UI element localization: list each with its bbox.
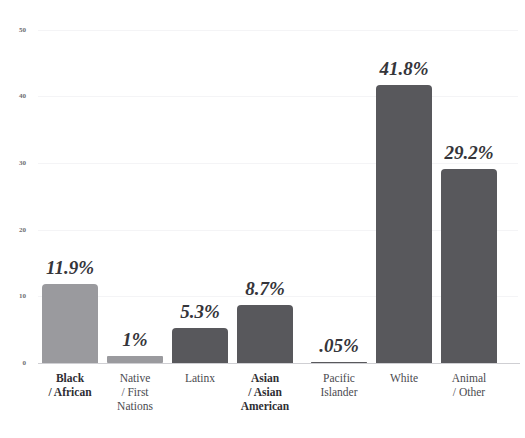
bar-value-animal-other: 29.2% xyxy=(421,142,517,164)
plot-area: 50 40 30 20 10 0 11.9% 1% 5.3% 8.7% .05%… xyxy=(0,0,525,438)
bar-animal-other[interactable] xyxy=(441,169,497,363)
bar-native-first-nations[interactable] xyxy=(107,356,163,363)
x-label-line: Latinx xyxy=(165,371,235,385)
y-tick-50: 50 xyxy=(4,26,26,34)
gridline-50 xyxy=(38,30,518,31)
x-label-latinx: Latinx xyxy=(165,371,235,385)
y-tick-40: 40 xyxy=(4,92,26,100)
bar-white[interactable] xyxy=(376,85,432,363)
x-label-line: / Asian xyxy=(230,385,300,399)
bar-pacific-islander[interactable] xyxy=(311,362,367,364)
x-label-line: Black xyxy=(35,371,105,385)
bar-value-asian-asian-american: 8.7% xyxy=(217,278,313,300)
bar-value-native-first-nations: 1% xyxy=(87,329,183,351)
x-label-native-first-nations: Native/ FirstNations xyxy=(100,371,170,413)
x-label-line: American xyxy=(230,399,300,413)
x-label-line: White xyxy=(369,371,439,385)
x-label-line: Asian xyxy=(230,371,300,385)
y-tick-0: 0 xyxy=(4,359,26,367)
bar-value-black-african: 11.9% xyxy=(22,257,118,279)
x-label-line: Nations xyxy=(100,399,170,413)
x-label-black-african: Black/ African xyxy=(35,371,105,399)
x-label-line: / First xyxy=(100,385,170,399)
gridline-40 xyxy=(38,96,518,97)
x-label-line: / Other xyxy=(434,385,504,399)
y-tick-10: 10 xyxy=(4,292,26,300)
bar-value-white: 41.8% xyxy=(356,58,452,80)
x-label-line: Islander xyxy=(304,385,374,399)
x-axis-line xyxy=(38,363,520,364)
x-label-white: White xyxy=(369,371,439,385)
x-label-line: / African xyxy=(35,385,105,399)
x-label-line: Native xyxy=(100,371,170,385)
bar-chart: 50 40 30 20 10 0 11.9% 1% 5.3% 8.7% .05%… xyxy=(0,0,525,438)
x-label-line: Animal xyxy=(434,371,504,385)
bar-value-latinx: 5.3% xyxy=(152,301,248,323)
bar-value-pacific-islander: .05% xyxy=(291,335,387,357)
x-label-animal-other: Animal/ Other xyxy=(434,371,504,399)
y-tick-30: 30 xyxy=(4,159,26,167)
x-label-asian-asian-american: Asian/ AsianAmerican xyxy=(230,371,300,413)
x-label-pacific-islander: PacificIslander xyxy=(304,371,374,399)
x-label-line: Pacific xyxy=(304,371,374,385)
y-tick-20: 20 xyxy=(4,226,26,234)
